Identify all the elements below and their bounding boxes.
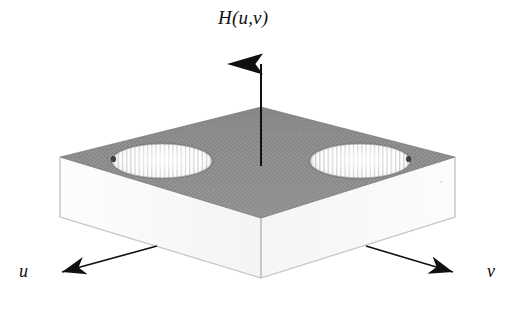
figure-root: H(u,v) u v: [0, 0, 520, 311]
right-face-mark: [440, 181, 442, 183]
u-axis-label: u: [19, 262, 28, 280]
u-axis-arrow: [62, 246, 157, 272]
v-axis-arrow: [366, 246, 453, 272]
vertical-axis-label: H(u,v): [218, 8, 268, 27]
v-axis-label: v: [487, 262, 495, 280]
notch-filter-surface-plot: [0, 0, 520, 311]
